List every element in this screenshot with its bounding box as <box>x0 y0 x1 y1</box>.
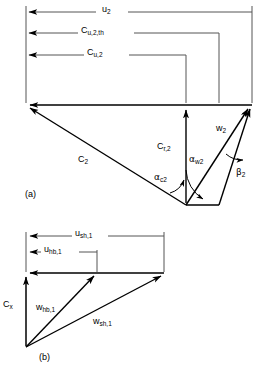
angle-arc-alpha-c2 <box>170 180 184 193</box>
label-cr2: Cr,2 <box>157 142 171 151</box>
label-u2: u2 <box>102 5 111 14</box>
label-cx: Cx <box>3 300 13 309</box>
label-whb1: whb,1 <box>36 303 55 312</box>
label-cu2th: Cu,2,th <box>81 26 104 35</box>
angle-arc-alpha-w2 <box>186 170 203 199</box>
label-alpha-w2: αw2 <box>189 155 203 164</box>
label-beta-2: β2 <box>236 168 245 177</box>
velocity-triangle-figure <box>0 0 257 369</box>
label-uhb1: uhb,1 <box>44 245 62 254</box>
panel-a-group <box>26 5 252 205</box>
label-alpha-c2: αc2 <box>154 173 167 182</box>
caption-panel-b: (b) <box>39 353 50 362</box>
label-cu2: Cu,2 <box>87 48 103 57</box>
caption-panel-a: (a) <box>25 190 36 199</box>
vector-c2 <box>30 108 186 205</box>
label-c2: C2 <box>78 155 88 164</box>
label-wsh1: wsh,1 <box>93 317 112 326</box>
text-gap-u2 <box>96 5 128 20</box>
label-ush1: ush,1 <box>75 229 92 238</box>
label-w2: w2 <box>216 124 226 133</box>
